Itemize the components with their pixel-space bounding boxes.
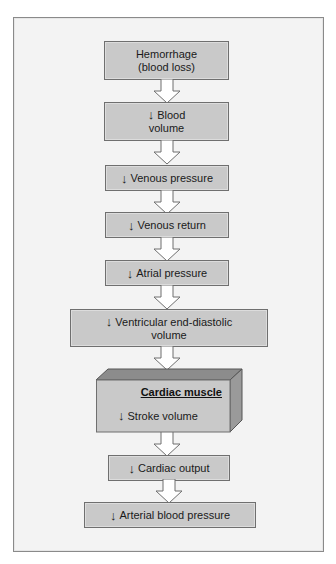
cube-front-face: Cardiac muscle ↓Stroke volume [96,380,230,432]
node-atrial-pressure: ↓Atrial pressure [105,260,229,286]
decrease-arrow-icon: ↓ [121,172,128,185]
decrease-arrow-icon: ↓ [128,219,135,232]
decrease-arrow-icon: ↓ [148,107,155,122]
flow-arrow-icon [153,237,181,262]
node-arterial-bp: ↓Arterial blood pressure [84,502,256,528]
flow-arrow-icon [153,285,181,310]
decrease-arrow-icon: ↓ [128,462,135,475]
node-ventricular-edv: ↓Ventricular end-diastolic volume [70,309,268,347]
node-cardiac-output-label: Cardiac output [138,462,210,475]
node-stroke-volume: ↓Stroke volume [118,408,198,423]
flow-arrow-icon [155,479,183,504]
node-ventricular-edv-line2: volume [106,329,232,342]
node-venous-return-label: Venous return [138,219,207,232]
node-blood-volume-line1: Blood [157,109,185,121]
decrease-arrow-icon: ↓ [110,509,117,522]
node-venous-pressure: ↓Venous pressure [105,165,229,191]
flow-arrow-icon [153,79,181,104]
node-blood-volume-line2: volume [148,122,186,135]
node-ventricular-edv-line1: Ventricular end-diastolic [115,316,232,328]
node-hemorrhage: Hemorrhage (blood loss) [104,41,229,80]
node-cardiac-output: ↓Cardiac output [108,455,230,481]
decrease-arrow-icon: ↓ [106,314,113,329]
node-atrial-pressure-label: Atrial pressure [136,267,207,280]
node-cardiac-muscle-box: Cardiac muscle ↓Stroke volume [96,368,243,433]
flow-arrow-icon [153,140,181,165]
node-stroke-volume-label: Stroke volume [128,410,198,422]
node-venous-pressure-label: Venous pressure [130,172,213,185]
node-blood-volume: ↓Blood volume [104,102,229,141]
node-hemorrhage-line2: (blood loss) [136,61,197,74]
flow-arrow-icon [153,432,181,457]
node-venous-return: ↓Venous return [105,212,229,238]
node-hemorrhage-line1: Hemorrhage [136,48,197,61]
node-arterial-bp-label: Arterial blood pressure [119,509,230,522]
cardiac-muscle-title: Cardiac muscle [141,386,222,398]
decrease-arrow-icon: ↓ [118,408,125,423]
decrease-arrow-icon: ↓ [127,267,134,280]
